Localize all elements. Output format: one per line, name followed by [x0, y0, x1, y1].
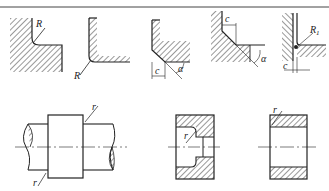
figure-external-chamfer: c α [152, 20, 190, 79]
figure-external-fillet: R [73, 18, 130, 81]
chamfer-length-label: c [225, 13, 230, 24]
figure-internal-chamfer: c α [211, 11, 267, 67]
radius-label: R [35, 18, 42, 29]
chamfer-angle-label: α [261, 53, 267, 64]
radius-label: r [273, 104, 277, 115]
figure-internal-fillet: R [10, 18, 62, 72]
figure-shaft-collar: r r [15, 101, 127, 188]
radius-label: r [184, 130, 188, 141]
figure-stepped-bore: r [168, 115, 222, 179]
chamfer-length-label: c [155, 65, 160, 76]
radius-label: r [33, 177, 37, 188]
radius-label: R [73, 70, 80, 81]
figure-straight-bore: r [258, 104, 318, 179]
clearance-label: c [283, 60, 288, 71]
chamfer-angle-label: α [178, 63, 184, 74]
radius-label: r [92, 101, 96, 112]
fillet-chamfer-diagram: R R c α c α [0, 0, 329, 191]
figure-fillet-clearance: R1 c [282, 13, 326, 73]
